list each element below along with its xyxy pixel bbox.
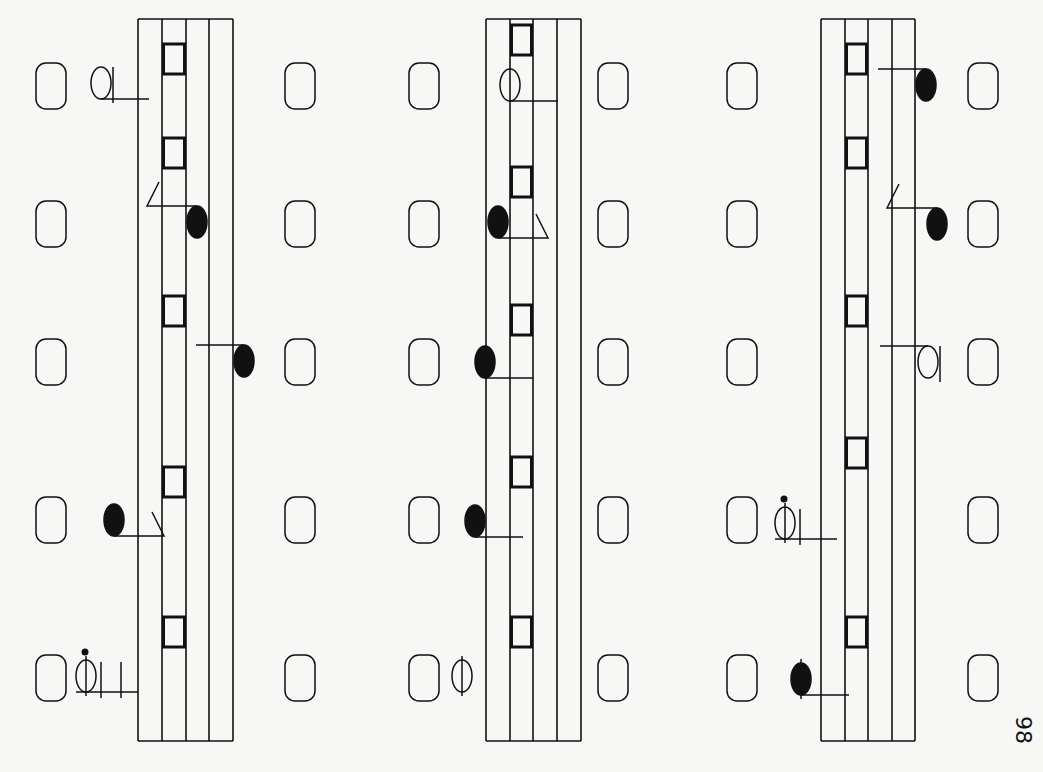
- rest-left: [36, 201, 66, 247]
- square-mark: [164, 467, 185, 497]
- notehead: [475, 346, 495, 378]
- square-mark: [512, 167, 532, 197]
- notehead: [104, 504, 124, 536]
- square-mark: [512, 25, 532, 55]
- note-stem-flag: [147, 182, 197, 206]
- note-stem-flag: [887, 184, 937, 208]
- music-score: [0, 0, 1043, 772]
- rest-left: [409, 655, 439, 701]
- rest-right: [968, 63, 998, 109]
- square-mark: [164, 296, 185, 326]
- rest-left: [727, 655, 757, 701]
- square-mark: [847, 138, 867, 168]
- rest-left: [36, 63, 66, 109]
- square-mark: [512, 305, 532, 335]
- augmentation-dot: [82, 649, 89, 656]
- rest-right: [968, 655, 998, 701]
- rest-right: [968, 201, 998, 247]
- square-mark: [847, 438, 867, 468]
- notehead: [488, 206, 508, 238]
- notehead: [916, 69, 936, 101]
- rest-right: [598, 339, 628, 385]
- square-mark: [164, 617, 185, 647]
- rest-right: [285, 497, 315, 543]
- rest-right: [598, 201, 628, 247]
- rest-right: [285, 339, 315, 385]
- notehead: [465, 505, 485, 537]
- rest-left: [36, 339, 66, 385]
- page-number: 98: [1008, 710, 1038, 750]
- rest-right: [598, 497, 628, 543]
- rest-left: [36, 655, 66, 701]
- notehead: [918, 346, 938, 378]
- augmentation-dot: [781, 496, 788, 503]
- square-mark: [512, 457, 532, 487]
- square-mark: [512, 617, 532, 647]
- rest-left: [727, 201, 757, 247]
- rest-right: [598, 63, 628, 109]
- rest-left: [36, 497, 66, 543]
- rest-left: [409, 63, 439, 109]
- rest-left: [727, 63, 757, 109]
- rest-right: [598, 655, 628, 701]
- square-mark: [164, 44, 185, 74]
- notehead: [234, 345, 254, 377]
- rest-right: [285, 201, 315, 247]
- square-mark: [847, 44, 867, 74]
- score-page: 98: [0, 0, 1043, 772]
- square-mark: [847, 617, 867, 647]
- square-mark: [847, 296, 867, 326]
- rest-right: [968, 339, 998, 385]
- rest-right: [285, 655, 315, 701]
- rest-left: [409, 497, 439, 543]
- rest-right: [285, 63, 315, 109]
- square-mark: [164, 138, 185, 168]
- notehead: [187, 206, 207, 238]
- notehead: [927, 208, 947, 240]
- rest-left: [727, 339, 757, 385]
- rest-left: [409, 339, 439, 385]
- notehead: [91, 67, 111, 99]
- rest-left: [409, 201, 439, 247]
- rest-left: [727, 497, 757, 543]
- rest-right: [968, 497, 998, 543]
